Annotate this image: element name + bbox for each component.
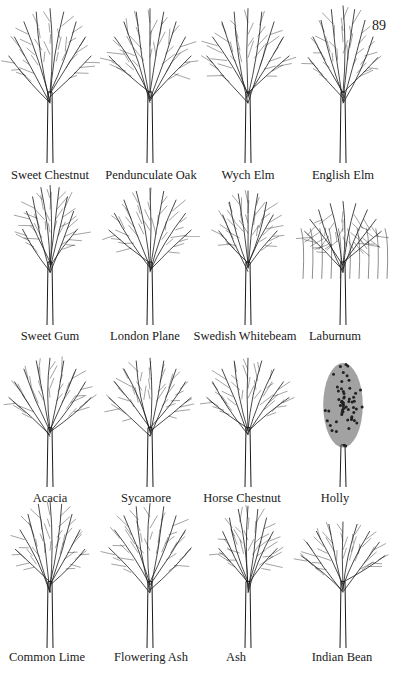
tree-caption: Swedish Whitebeam bbox=[194, 329, 297, 344]
tree-illustration bbox=[293, 185, 393, 325]
tree-caption: Wych Elm bbox=[221, 168, 274, 183]
tree-caption: English Elm bbox=[312, 168, 374, 183]
tree-illustration bbox=[0, 355, 100, 487]
tree-illustration bbox=[293, 500, 393, 648]
tree-caption: Sweet Gum bbox=[21, 329, 80, 344]
tree-caption: Flowering Ash bbox=[114, 650, 188, 665]
tree-illustration bbox=[0, 500, 100, 648]
tree-caption: London Plane bbox=[110, 329, 180, 344]
tree-caption: Indian Bean bbox=[312, 650, 373, 665]
tree-illustration bbox=[0, 185, 100, 325]
tree-illustration bbox=[198, 185, 298, 325]
tree-illustration bbox=[0, 5, 100, 163]
tree-illustration bbox=[198, 5, 298, 163]
tree-illustration bbox=[100, 500, 200, 648]
tree-caption: Sweet Chestnut bbox=[11, 168, 89, 183]
tree-caption: Ash bbox=[226, 650, 246, 665]
tree-illustration bbox=[198, 500, 298, 648]
tree-caption: Common Lime bbox=[9, 650, 85, 665]
tree-illustration bbox=[100, 185, 200, 325]
tree-illustration bbox=[198, 355, 298, 487]
tree-illustration bbox=[293, 5, 393, 163]
tree-caption: Pendunculate Oak bbox=[105, 168, 196, 183]
tree-caption: Laburnum bbox=[309, 329, 361, 344]
tree-illustration bbox=[298, 355, 388, 487]
tree-illustration bbox=[100, 355, 200, 487]
tree-illustration bbox=[100, 5, 200, 163]
